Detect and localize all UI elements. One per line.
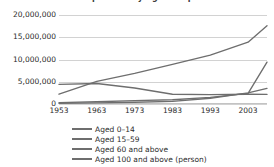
legend-item: Aged 60 and above bbox=[72, 144, 268, 154]
legend-item-label: Aged 100 and above (person) bbox=[95, 155, 207, 164]
y-axis-tick-label: 0 bbox=[0, 100, 56, 108]
x-axis-tick-label: 1983 bbox=[163, 106, 182, 116]
y-axis: 05,000,00010,000,00015,000,00020,000,000 bbox=[0, 0, 56, 110]
x-axis-tick-label: 2003 bbox=[239, 106, 258, 116]
y-axis-tick-label: 15,000,000 bbox=[0, 33, 56, 41]
series-line bbox=[59, 26, 267, 95]
legend-item: Aged 100 and above (person) bbox=[72, 154, 268, 164]
y-axis-tick-label: 20,000,000 bbox=[0, 11, 56, 19]
y-axis-tick-label: 10,000,000 bbox=[0, 56, 56, 64]
series-container bbox=[59, 15, 267, 104]
line-chart: Population by Age Group 05,000,00010,000… bbox=[0, 0, 274, 167]
x-axis-tick-label: 1993 bbox=[201, 106, 220, 116]
x-axis: 195319631973198319932003 bbox=[59, 106, 267, 118]
series-line bbox=[59, 62, 267, 103]
legend-item: Aged 0–14 bbox=[72, 124, 268, 134]
x-axis-tick-label: 1963 bbox=[87, 106, 106, 116]
legend-item-label: Aged 60 and above bbox=[95, 145, 168, 154]
series-line bbox=[59, 88, 267, 103]
plot-area bbox=[59, 15, 267, 104]
gridline bbox=[59, 104, 267, 105]
x-axis-tick-label: 1953 bbox=[49, 106, 68, 116]
legend-line-swatch bbox=[72, 128, 92, 130]
y-axis-tick-label: 5,000,000 bbox=[0, 78, 56, 86]
legend-line-swatch bbox=[72, 138, 92, 140]
x-axis-tick-label: 1973 bbox=[125, 106, 144, 116]
legend-line-swatch bbox=[72, 158, 92, 160]
legend-line-swatch bbox=[72, 148, 92, 150]
legend-item-label: Aged 15–59 bbox=[95, 135, 140, 144]
series-line bbox=[59, 84, 267, 95]
legend-item: Aged 15–59 bbox=[72, 134, 268, 144]
chart-legend: Aged 0–14Aged 15–59Aged 60 and aboveAged… bbox=[72, 124, 268, 164]
legend-item-label: Aged 0–14 bbox=[95, 125, 135, 134]
